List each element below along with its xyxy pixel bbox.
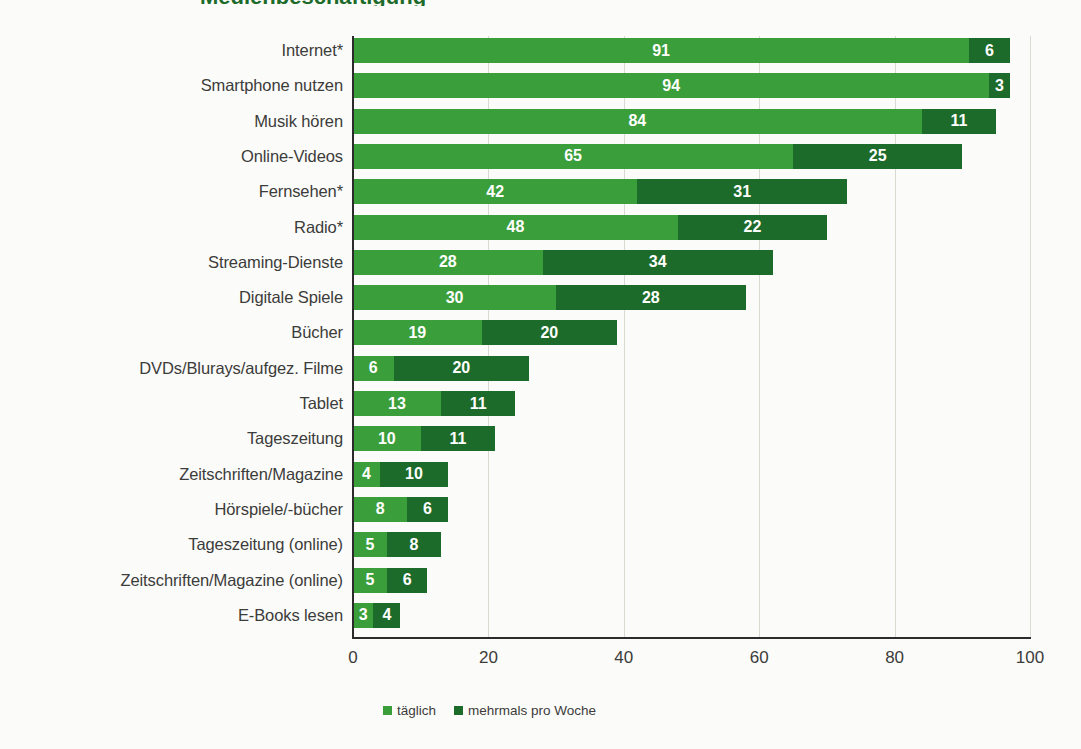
bar-value-label: 65 <box>564 148 582 164</box>
y-axis-label: Fernsehen* <box>259 179 343 204</box>
bar-segment-mehrmals[interactable]: 4 <box>373 603 400 628</box>
y-axis-label: Digitale Spiele <box>239 285 343 310</box>
legend-item-mehrmals[interactable]: mehrmals pro Woche <box>454 703 596 718</box>
bar-segment-mehrmals[interactable]: 20 <box>482 320 617 345</box>
bar-segment-mehrmals[interactable]: 22 <box>678 215 827 240</box>
bar-row[interactable]: 620 <box>353 356 529 381</box>
y-axis-label: Radio* <box>294 215 343 240</box>
bar-segment-taeglich[interactable]: 5 <box>353 532 387 557</box>
bar-value-label: 6 <box>423 501 432 517</box>
bar-segment-mehrmals[interactable]: 6 <box>407 497 448 522</box>
bar-value-label: 11 <box>950 113 967 129</box>
bar-value-label: 25 <box>869 148 887 164</box>
bar-value-label: 10 <box>405 466 423 482</box>
bar-segment-taeglich[interactable]: 84 <box>353 109 922 134</box>
bar-segment-taeglich[interactable]: 4 <box>353 462 380 487</box>
bar-value-label: 42 <box>486 184 504 200</box>
bar-row[interactable]: 410 <box>353 462 448 487</box>
bar-value-label: 4 <box>362 466 371 482</box>
bar-row[interactable]: 56 <box>353 568 427 593</box>
bar-value-label: 30 <box>446 290 464 306</box>
y-axis-label: Tablet <box>300 391 343 416</box>
bar-segment-taeglich[interactable]: 5 <box>353 568 387 593</box>
x-tick-100: 100 <box>1016 648 1044 668</box>
y-axis-label: Hörspiele/-bücher <box>214 497 343 522</box>
legend-label: täglich <box>397 703 436 718</box>
bar-value-label: 34 <box>649 254 667 270</box>
bar-value-label: 5 <box>365 572 374 588</box>
bar-segment-taeglich[interactable]: 6 <box>353 356 394 381</box>
x-axis-tick-labels: 020406080100 <box>0 648 1081 678</box>
x-tick-0: 0 <box>348 648 357 668</box>
bar-segment-mehrmals[interactable]: 6 <box>969 38 1010 63</box>
y-axis-label: Online-Videos <box>241 144 343 169</box>
legend-swatch-icon <box>383 706 392 715</box>
bar-segment-taeglich[interactable]: 42 <box>353 179 637 204</box>
bar-row[interactable]: 1011 <box>353 426 495 451</box>
bar-value-label: 4 <box>382 607 391 623</box>
chart-legend: täglichmehrmals pro Woche <box>383 700 596 720</box>
bar-row[interactable]: 916 <box>353 38 1010 63</box>
bar-value-label: 5 <box>365 537 374 553</box>
bar-segment-mehrmals[interactable]: 8 <box>387 532 441 557</box>
bar-value-label: 11 <box>470 396 487 412</box>
x-tick-60: 60 <box>750 648 769 668</box>
bar-segment-mehrmals[interactable]: 10 <box>380 462 448 487</box>
bar-segment-taeglich[interactable]: 19 <box>353 320 482 345</box>
bar-segment-mehrmals[interactable]: 11 <box>922 109 996 134</box>
bar-segment-mehrmals[interactable]: 11 <box>421 426 495 451</box>
bar-segment-mehrmals[interactable]: 11 <box>441 391 515 416</box>
x-tick-80: 80 <box>885 648 904 668</box>
bar-value-label: 6 <box>403 572 412 588</box>
plot-area: 9169438411652542314822283430281920620131… <box>353 36 1030 637</box>
legend-label: mehrmals pro Woche <box>468 703 596 718</box>
legend-item-taeglich[interactable]: täglich <box>383 703 436 718</box>
y-axis-label: Tageszeitung <box>247 426 343 451</box>
bar-segment-taeglich[interactable]: 13 <box>353 391 441 416</box>
bar-segment-taeglich[interactable]: 3 <box>353 603 373 628</box>
bar-segment-taeglich[interactable]: 91 <box>353 38 969 63</box>
bar-value-label: 31 <box>733 184 751 200</box>
bar-row[interactable]: 2834 <box>353 250 773 275</box>
bar-row[interactable]: 8411 <box>353 109 996 134</box>
bar-segment-taeglich[interactable]: 48 <box>353 215 678 240</box>
bar-row[interactable]: 6525 <box>353 144 962 169</box>
bar-value-label: 3 <box>995 78 1004 94</box>
bar-value-label: 48 <box>507 219 525 235</box>
bar-row[interactable]: 34 <box>353 603 400 628</box>
bar-segment-mehrmals[interactable]: 34 <box>543 250 773 275</box>
bar-value-label: 84 <box>628 113 646 129</box>
bar-value-label: 91 <box>652 43 670 59</box>
bar-row[interactable]: 86 <box>353 497 448 522</box>
bar-segment-taeglich[interactable]: 94 <box>353 73 989 98</box>
y-axis-label: Smartphone nutzen <box>201 73 343 98</box>
x-tick-20: 20 <box>479 648 498 668</box>
bar-segment-taeglich[interactable]: 65 <box>353 144 793 169</box>
y-axis-category-labels: Internet*Smartphone nutzenMusik hörenOnl… <box>0 36 343 637</box>
bar-segment-mehrmals[interactable]: 3 <box>989 73 1009 98</box>
bar-row[interactable]: 943 <box>353 73 1010 98</box>
bar-segment-mehrmals[interactable]: 25 <box>793 144 962 169</box>
bar-row[interactable]: 1311 <box>353 391 515 416</box>
bar-segment-taeglich[interactable]: 28 <box>353 250 543 275</box>
bar-segment-taeglich[interactable]: 10 <box>353 426 421 451</box>
y-axis-label: Zeitschriften/Magazine (online) <box>120 568 343 593</box>
bar-value-label: 28 <box>642 290 660 306</box>
bar-value-label: 3 <box>359 607 368 623</box>
bar-segment-mehrmals[interactable]: 28 <box>556 285 746 310</box>
bar-segment-mehrmals[interactable]: 6 <box>387 568 428 593</box>
bar-segment-taeglich[interactable]: 30 <box>353 285 556 310</box>
chart-container: Medienbeschäftigung Internet*Smartphone … <box>0 0 1081 749</box>
bar-row[interactable]: 4822 <box>353 215 827 240</box>
y-axis-line <box>352 36 354 638</box>
chart-title-cropped: Medienbeschäftigung <box>200 0 620 6</box>
bar-row[interactable]: 4231 <box>353 179 847 204</box>
bar-row[interactable]: 58 <box>353 532 441 557</box>
bar-segment-mehrmals[interactable]: 31 <box>637 179 847 204</box>
bar-row[interactable]: 3028 <box>353 285 746 310</box>
bar-row[interactable]: 1920 <box>353 320 617 345</box>
bar-segment-mehrmals[interactable]: 20 <box>394 356 529 381</box>
bar-segment-taeglich[interactable]: 8 <box>353 497 407 522</box>
bar-value-label: 8 <box>376 501 385 517</box>
x-tick-40: 40 <box>614 648 633 668</box>
